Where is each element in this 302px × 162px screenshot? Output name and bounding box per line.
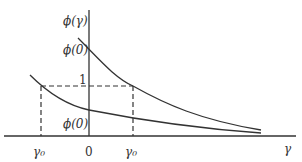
origin-label: 0	[85, 145, 93, 159]
gamma0-left-label: γ₀	[33, 145, 45, 159]
upper-curve	[78, 38, 261, 130]
one-label: 1	[79, 73, 87, 87]
gamma0-right-label: γ₀	[125, 145, 137, 159]
upper-intercept-label: ϕ(0)	[63, 43, 88, 57]
x-axis-label: γ	[284, 142, 292, 156]
lower-intercept-label: ϕ(0)	[63, 117, 88, 131]
y-axis-label: ϕ(γ)	[63, 14, 88, 28]
diagram-canvas: ϕ(γ) ϕ(0) 1 ϕ(0) γ₀ 0 γ₀ γ	[0, 0, 302, 162]
